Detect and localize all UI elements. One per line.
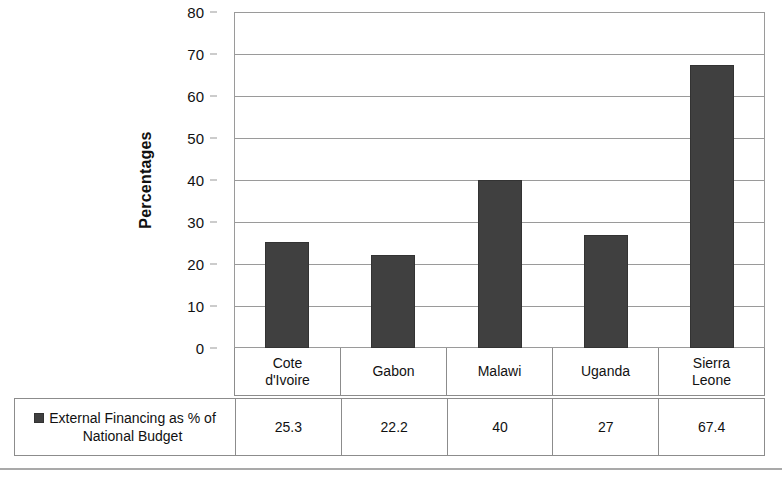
bar-slot [659,12,765,348]
x-axis-category-cell: Gabon [340,348,446,395]
data-value-cell: 25.3 [235,399,341,455]
y-axis-tick-mark [210,222,217,223]
y-axis-tick-label: 60 [84,88,204,105]
y-axis-tick-label: 40 [84,172,204,189]
data-value-cell: 27 [552,399,658,455]
bar-slot [446,12,552,348]
bar[interactable] [371,255,415,348]
x-axis-category-label: Sierra Leone [692,355,731,389]
y-axis-tick-mark [210,306,217,307]
legend-color-swatch-icon [34,413,44,423]
y-axis-tick-label: 50 [84,130,204,147]
y-axis-tick-label: 0 [84,340,204,357]
y-axis-tick-label: 70 [84,46,204,63]
bar[interactable] [478,180,522,348]
bar-chart-figure: Percentages 80 70 60 50 40 30 20 10 0 [0,0,782,478]
y-axis-tick-label: 30 [84,214,204,231]
bar[interactable] [265,242,309,348]
bar-slot [340,12,446,348]
y-axis-tick-label: 80 [84,4,204,21]
legend-cell: External Financing as % of National Budg… [15,399,235,455]
x-axis-category-cell: Uganda [552,348,658,395]
x-axis-category-label: Malawi [478,363,522,380]
bar-slot [234,12,340,348]
y-axis-tick-mark [210,12,217,13]
x-axis-category-label: Uganda [581,363,630,380]
bar[interactable] [584,235,628,348]
y-axis-tick-mark [210,96,217,97]
y-axis-tick-mark [210,348,217,349]
bar-series-group [234,12,765,348]
y-axis-tick-mark [210,180,217,181]
bar-slot [553,12,659,348]
data-value-cell: 67.4 [658,399,764,455]
x-axis-category-cell: Malawi [446,348,552,395]
page-footer-rule [0,468,782,470]
x-axis-category-table: Cote d'Ivoire Gabon Malawi Uganda Sierra… [234,348,765,396]
y-axis-tick-label: 20 [84,256,204,273]
legend-series-label: External Financing as % of National Budg… [49,409,216,445]
y-axis-tick-label: 10 [84,298,204,315]
bar[interactable] [690,65,734,348]
y-axis-tick-mark [210,138,217,139]
y-axis-tick-group: 80 70 60 50 40 30 20 10 0 [0,0,234,360]
x-axis-category-label: Gabon [372,363,414,380]
x-axis-category-cell: Sierra Leone [658,348,764,395]
y-axis-tick-mark [210,54,217,55]
data-value-cell: 40 [447,399,553,455]
x-axis-category-label: Cote d'Ivoire [265,355,310,389]
y-axis-tick-mark [210,264,217,265]
data-value-table: External Financing as % of National Budg… [14,398,765,456]
x-axis-category-cell: Cote d'Ivoire [235,348,340,395]
data-value-cell: 22.2 [341,399,447,455]
